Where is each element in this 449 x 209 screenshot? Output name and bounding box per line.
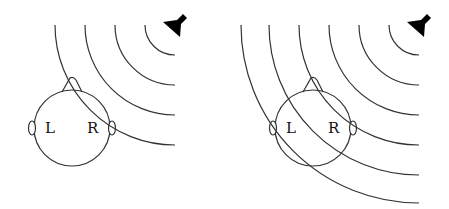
wavefront-arc	[269, 25, 419, 175]
speaker-icon	[407, 14, 431, 37]
panel-right-far-source: LR	[241, 14, 431, 203]
wavefront-arc	[145, 25, 175, 55]
wavefront-arc	[329, 25, 419, 115]
wavefronts	[241, 25, 419, 203]
speaker-icon	[163, 14, 187, 37]
wavefront-arc	[389, 25, 419, 55]
head: LR	[29, 77, 116, 166]
head: LR	[270, 77, 357, 166]
left-ear	[29, 121, 36, 135]
panel-left-near-source: LR	[29, 14, 188, 166]
right-ear-label: R	[87, 119, 99, 137]
wavefront-arc	[241, 25, 419, 203]
wavefront-arc	[359, 25, 419, 85]
left-ear-label: L	[286, 119, 296, 137]
wavefront-arc	[115, 25, 175, 85]
right-ear-label: R	[328, 119, 340, 137]
sound-localization-diagram: LR LR	[0, 0, 449, 209]
left-ear-label: L	[45, 119, 55, 137]
